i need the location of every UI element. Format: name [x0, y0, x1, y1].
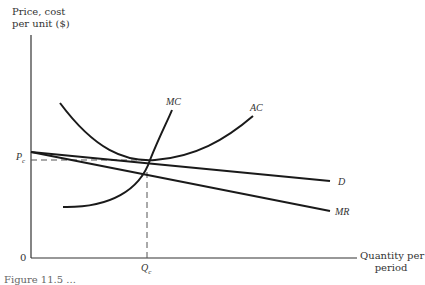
ac-curve-label: AC	[250, 102, 263, 114]
x-axis-label-line1: Quantity per	[360, 250, 422, 262]
average-cost-curve-ac	[60, 103, 253, 160]
x-axis-label: Quantity per period	[360, 250, 422, 274]
mc-curve-label: MC	[166, 96, 181, 108]
qc-label-sub: c	[148, 268, 151, 276]
d-curve-label: D	[338, 176, 345, 188]
qc-label: Qc	[141, 262, 151, 278]
marginal-revenue-curve-mr	[31, 152, 330, 211]
mr-curve-label: MR	[335, 206, 349, 218]
figure-caption: Figure 11.5 ...	[4, 274, 76, 285]
pc-label: Pc	[16, 151, 25, 167]
y-axis-label-line2: per unit ($)	[12, 18, 62, 30]
pc-label-sub: c	[22, 157, 25, 165]
y-axis-label-line1: Price, cost	[12, 6, 62, 18]
marginal-cost-curve-mc	[63, 110, 172, 207]
origin-label: 0	[20, 252, 26, 264]
x-axis-label-line2: period	[360, 262, 422, 274]
y-axis-label: Price, cost per unit ($)	[12, 6, 62, 30]
